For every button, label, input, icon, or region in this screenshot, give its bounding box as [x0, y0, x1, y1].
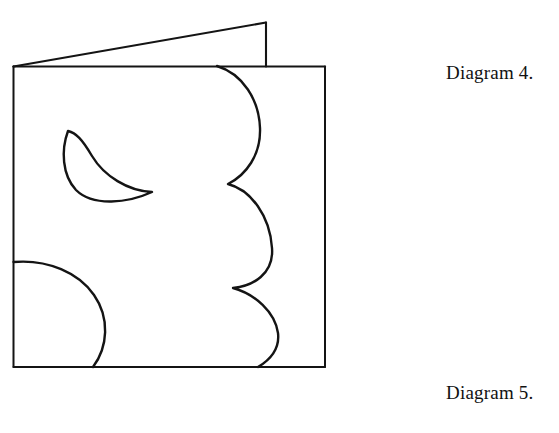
- caption-diagram-5: Diagram 5.: [446, 382, 533, 404]
- scalloped-cut-edge: [217, 66, 278, 367]
- flap-slant-line: [14, 23, 267, 67]
- caption-diagram-4: Diagram 4.: [446, 62, 533, 84]
- figure-page: Diagram 4. Diagram 5.: [0, 0, 559, 433]
- crescent-cutout: [64, 131, 152, 202]
- half-circle-cutout: [14, 262, 106, 367]
